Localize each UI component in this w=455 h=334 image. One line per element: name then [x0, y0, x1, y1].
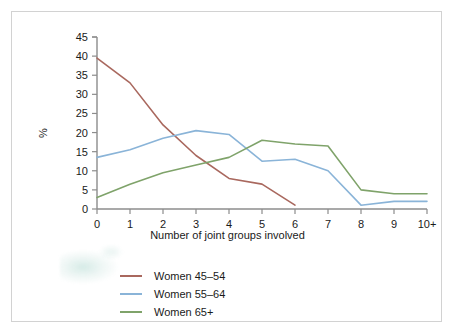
y-tick-label: 25	[76, 107, 88, 119]
y-tick-label: 20	[76, 127, 88, 139]
y-tick-label: 10	[76, 165, 88, 177]
legend-item-1[interactable]: Women 45–54	[120, 267, 225, 285]
y-tick-label: 0	[82, 203, 88, 215]
x-axis: 012345678910+	[94, 209, 436, 230]
legend-label: Women 65+	[154, 306, 213, 318]
line-chart-plot: 051015202530354045 012345678910+	[12, 12, 442, 322]
y-tick-label: 45	[76, 31, 88, 43]
y-axis-title: %	[37, 128, 49, 138]
y-axis: 051015202530354045	[76, 31, 97, 215]
y-tick-label: 40	[76, 50, 88, 62]
y-tick-label: 5	[82, 184, 88, 196]
y-tick-label: 15	[76, 146, 88, 158]
series-line-3	[97, 140, 427, 197]
chart-figure: 051015202530354045 012345678910+ % Women…	[11, 11, 442, 322]
data-series-group	[97, 58, 427, 205]
legend-swatch-icon	[120, 293, 142, 295]
legend-label: Women 45–54	[154, 270, 225, 282]
legend-item-2[interactable]: Women 55–64	[120, 285, 225, 303]
legend-swatch-icon	[120, 275, 142, 277]
y-tick-label: 35	[76, 69, 88, 81]
legend-swatch-icon	[120, 311, 142, 313]
series-line-1	[97, 58, 295, 205]
legend-item-3[interactable]: Women 65+	[120, 303, 225, 321]
y-tick-label: 30	[76, 88, 88, 100]
series-line-2	[97, 131, 427, 206]
x-axis-title: Number of joint groups involved	[0, 229, 455, 241]
chart-legend: Women 45–54Women 55–64Women 65+	[120, 267, 225, 321]
legend-label: Women 55–64	[154, 288, 225, 300]
